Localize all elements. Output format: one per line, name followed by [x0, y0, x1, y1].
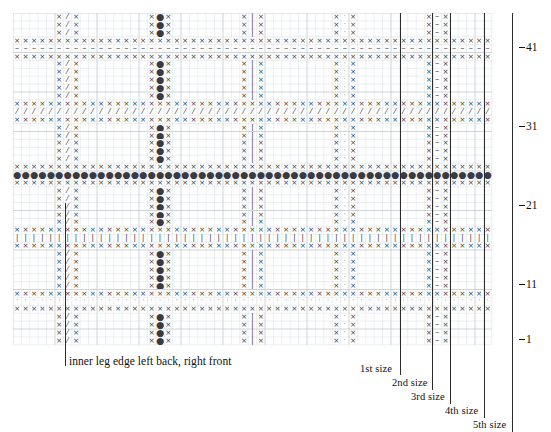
chart-cell: ❘	[55, 234, 63, 242]
chart-cell: ×	[164, 211, 172, 219]
chart-cell: ×	[416, 53, 424, 61]
chart-cell: ·	[341, 139, 349, 147]
chart-cell: ⁄	[72, 108, 80, 116]
chart-cell: ×	[30, 37, 38, 45]
chart-cell: ×	[391, 53, 399, 61]
chart-cell: ×	[181, 53, 189, 61]
chart-cell: ×	[89, 290, 97, 298]
chart-cell: ·	[441, 297, 449, 305]
chart-cell: ·	[265, 297, 273, 305]
chart-cell: ×	[458, 116, 466, 124]
chart-cell: ❘	[248, 21, 256, 29]
row-tick-1	[519, 339, 525, 340]
chart-cell: ×	[332, 313, 340, 321]
chart-cell: ×	[164, 305, 172, 313]
chart-cell: ●	[147, 171, 155, 179]
chart-cell: ×	[139, 179, 147, 187]
chart-cell: ×	[257, 21, 265, 29]
chart-cell: ×	[147, 147, 155, 155]
chart-cell: ×	[450, 53, 458, 61]
chart-cell: ×	[383, 100, 391, 108]
chart-cell: –	[72, 45, 80, 53]
chart-cell: ×	[156, 37, 164, 45]
chart-cell: ·	[341, 274, 349, 282]
chart-cell: ×	[122, 242, 130, 250]
chart-cell: ❘	[391, 234, 399, 242]
chart-cell: ❘	[366, 234, 374, 242]
chart-cell: ×	[114, 100, 122, 108]
chart-cell: ×	[240, 329, 248, 337]
chart-cell: –	[433, 321, 441, 329]
chart-cell: ⁄	[206, 108, 214, 116]
chart-cell: ×	[164, 321, 172, 329]
chart-cell: ×	[147, 187, 155, 195]
chart-cell: ×	[164, 187, 172, 195]
chart-cell: ×	[307, 100, 315, 108]
chart-cell: ×	[265, 37, 273, 45]
chart-cell: ·	[341, 211, 349, 219]
chart-cell: ×	[21, 37, 29, 45]
chart-cell: –	[332, 45, 340, 53]
chart-cell: ×	[475, 116, 483, 124]
chart-cell: ×	[198, 179, 206, 187]
chart-cell: ×	[55, 305, 63, 313]
chart-cell: ·	[299, 297, 307, 305]
chart-cell: ×	[164, 60, 172, 68]
chart-cell: ⁄	[374, 108, 382, 116]
chart-cell: ·	[55, 297, 63, 305]
chart-cell: ×	[240, 187, 248, 195]
chart-cell: ×	[450, 100, 458, 108]
chart-cell: ×	[408, 53, 416, 61]
chart-cell: ×	[315, 242, 323, 250]
chart-cell: ·	[315, 297, 323, 305]
chart-cell: ×	[164, 242, 172, 250]
chart-cell: ·	[341, 60, 349, 68]
chart-cell: ⁄	[257, 108, 265, 116]
chart-cell: ×	[357, 305, 365, 313]
chart-cell: ×	[55, 203, 63, 211]
size-line-2nd	[432, 13, 433, 390]
chart-cell: ×	[332, 305, 340, 313]
chart-cell: ×	[366, 226, 374, 234]
chart-cell: –	[433, 21, 441, 29]
chart-cell: ×	[55, 147, 63, 155]
chart-cell: ×	[290, 179, 298, 187]
chart-cell: ❘	[307, 234, 315, 242]
chart-cell: ×	[72, 147, 80, 155]
chart-cell: ×	[467, 305, 475, 313]
chart-cell: ×	[366, 179, 374, 187]
chart-cell: ×	[349, 29, 357, 37]
chart-cell: ×	[299, 226, 307, 234]
chart-cell: ●	[374, 171, 382, 179]
chart-cell: ×	[231, 116, 239, 124]
chart-cell: ×	[223, 116, 231, 124]
chart-cell: –	[383, 45, 391, 53]
chart-cell: ❘	[383, 234, 391, 242]
chart-cell: ×	[189, 37, 197, 45]
chart-cell: –	[433, 250, 441, 258]
chart-cell: ×	[450, 305, 458, 313]
chart-cell: ×	[307, 226, 315, 234]
chart-cell: ×	[72, 313, 80, 321]
chart-cell: ×	[441, 226, 449, 234]
chart-cell: ·	[341, 195, 349, 203]
chart-cell: ×	[47, 100, 55, 108]
chart-cell: ×	[72, 53, 80, 61]
chart-cell: ×	[408, 305, 416, 313]
chart-cell: ×	[72, 155, 80, 163]
chart-cell: ×	[72, 100, 80, 108]
chart-cell: ×	[156, 163, 164, 171]
row-tick-41	[519, 47, 525, 48]
chart-cell: ×	[282, 305, 290, 313]
chart-cell: ×	[147, 218, 155, 226]
chart-cell: ×	[374, 100, 382, 108]
chart-cell: ×	[441, 211, 449, 219]
chart-cell: ×	[164, 258, 172, 266]
chart-cell: ❘	[231, 234, 239, 242]
chart-cell: ×	[189, 163, 197, 171]
chart-cell: ×	[21, 305, 29, 313]
chart-cell: ×	[80, 226, 88, 234]
chart-cell: ×	[475, 179, 483, 187]
chart-cell: –	[433, 282, 441, 290]
chart-cell: ×	[21, 242, 29, 250]
